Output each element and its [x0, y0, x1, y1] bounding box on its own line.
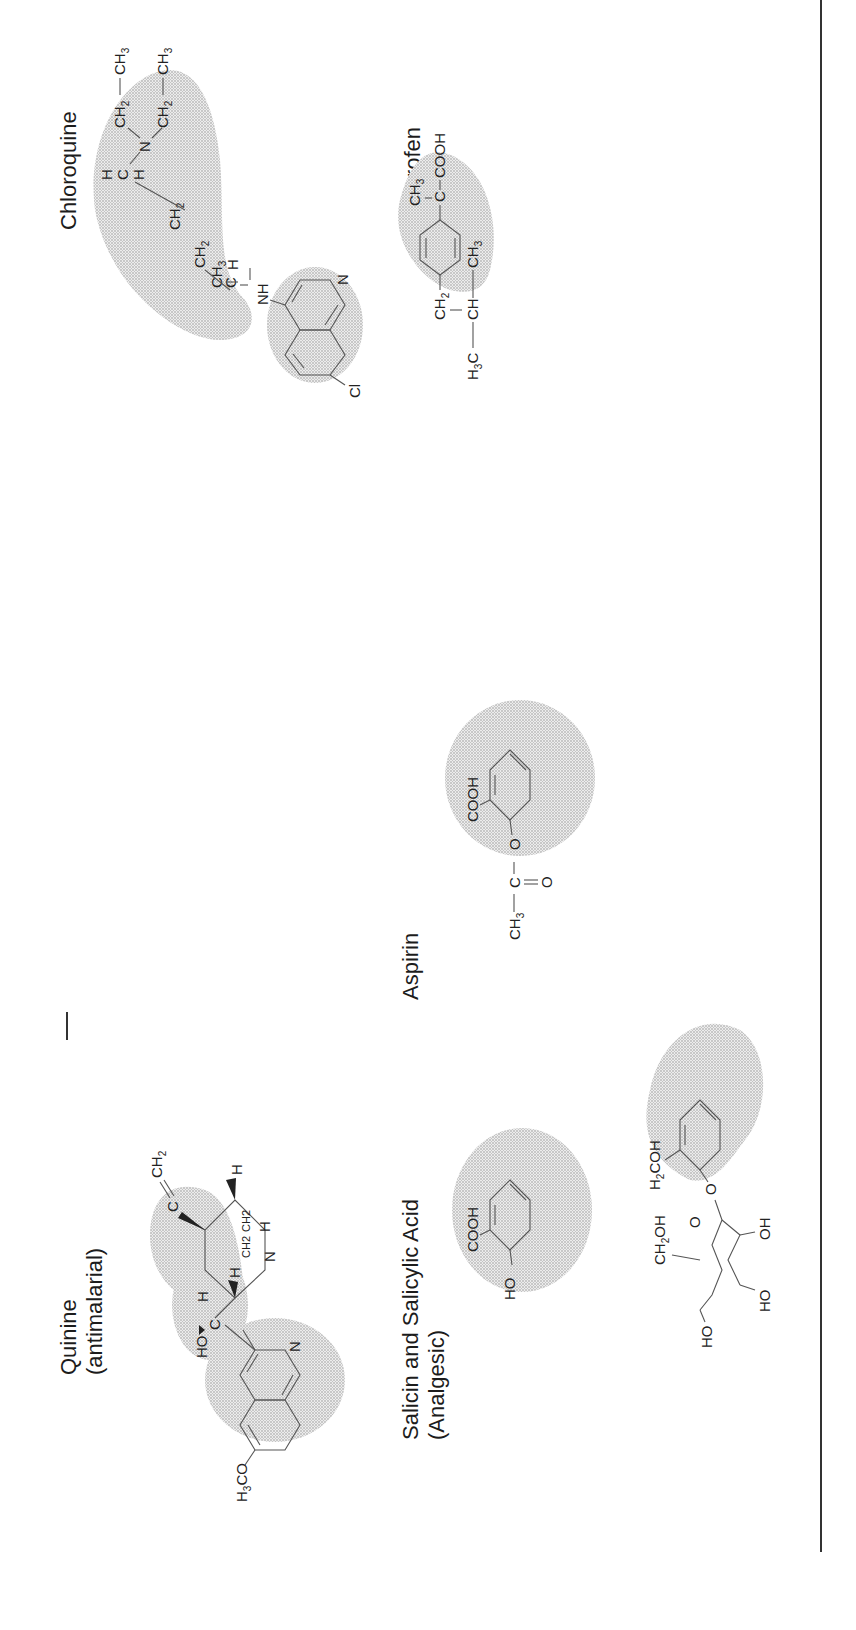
svg-text:CH2: CH2 — [240, 1210, 252, 1232]
svg-text:C: C — [164, 1201, 181, 1212]
svg-text:NH: NH — [254, 283, 271, 305]
svg-text:COOH: COOH — [464, 777, 481, 822]
svg-text:N: N — [261, 1251, 278, 1262]
svg-text:Cl: Cl — [346, 384, 363, 398]
svg-text:O: O — [702, 1183, 719, 1195]
svg-text:H3CO: H3CO — [233, 1463, 253, 1502]
svg-text:H: H — [98, 169, 115, 180]
svg-text:HO: HO — [193, 1336, 210, 1359]
salicylic-acid-structure: COOH HO — [452, 1128, 592, 1300]
svg-text:O: O — [538, 876, 555, 888]
svg-text:CH3: CH3 — [506, 912, 526, 940]
svg-text:H: H — [224, 259, 241, 270]
svg-text:O: O — [686, 1216, 703, 1228]
structures-canvas: N H3CO C HO H H N CH2 CH2 H C CH2 H — [0, 0, 856, 1630]
svg-text:HO: HO — [698, 1326, 715, 1349]
svg-text:CH3: CH3 — [111, 47, 131, 75]
svg-text:H: H — [194, 1291, 211, 1302]
svg-text:N: N — [334, 274, 351, 285]
svg-text:CH2: CH2 — [148, 1150, 168, 1178]
quinine-structure: N H3CO C HO H H N CH2 CH2 H C CH2 H — [148, 1150, 345, 1502]
svg-text:CH: CH — [464, 298, 481, 320]
svg-text:H: H — [226, 1267, 243, 1278]
svg-text:H: H — [130, 169, 147, 180]
svg-text:CH2: CH2 — [240, 1236, 252, 1258]
ibuprofen-structure: C CH3 COOH CH2 CH CH3 H3C — [398, 133, 494, 380]
svg-text:N: N — [286, 1341, 303, 1352]
svg-text:HO: HO — [501, 1278, 518, 1301]
svg-text:C: C — [114, 169, 131, 180]
svg-text:H: H — [256, 1221, 273, 1232]
svg-text:H: H — [228, 1164, 245, 1175]
svg-text:COOH: COOH — [431, 133, 448, 178]
svg-text:COOH: COOH — [464, 1207, 481, 1252]
svg-text:C: C — [431, 191, 448, 202]
svg-text:OH: OH — [756, 1218, 773, 1241]
svg-text:C: C — [506, 877, 523, 888]
salicin-structure: H2COH O O CH2OH OH HO HO — [646, 1024, 773, 1348]
svg-text:O: O — [506, 838, 523, 850]
aspirin-structure: COOH O C O CH3 — [445, 700, 595, 940]
svg-text:N: N — [136, 141, 153, 152]
svg-text:CH2OH: CH2OH — [651, 1215, 671, 1265]
chloroquine-structure: N Cl NH C CH3 H CH2 CH2 H C H N CH2 CH3 — [94, 47, 363, 398]
figure-page: Quinine (antimalarial) Salicin and Salic… — [0, 0, 856, 1630]
svg-text:H3C: H3C — [464, 353, 484, 380]
svg-text:CH2: CH2 — [431, 292, 451, 320]
svg-text:HO: HO — [756, 1290, 773, 1313]
svg-text:C: C — [206, 1319, 223, 1330]
